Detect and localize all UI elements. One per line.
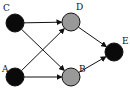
nodes-layer: CADBE <box>1 2 129 86</box>
node-b: B <box>62 64 86 86</box>
node-circle <box>62 13 80 31</box>
node-label: D <box>76 2 83 12</box>
edge-c-d <box>24 22 62 23</box>
node-circle <box>6 68 24 86</box>
graph-canvas: CADBE <box>0 0 130 90</box>
node-circle <box>62 68 80 86</box>
node-label: B <box>79 64 86 74</box>
edges-layer <box>21 22 106 77</box>
edge-d-e <box>78 27 106 46</box>
graph-diagram: CADBE <box>0 0 130 90</box>
node-label: E <box>122 36 129 46</box>
node-circle <box>105 43 123 61</box>
node-a: A <box>1 64 24 86</box>
node-circle <box>6 14 24 32</box>
node-c: C <box>3 3 24 32</box>
node-e: E <box>105 36 129 61</box>
node-d: D <box>62 2 83 31</box>
node-label: A <box>1 64 9 74</box>
node-label: C <box>3 3 10 13</box>
